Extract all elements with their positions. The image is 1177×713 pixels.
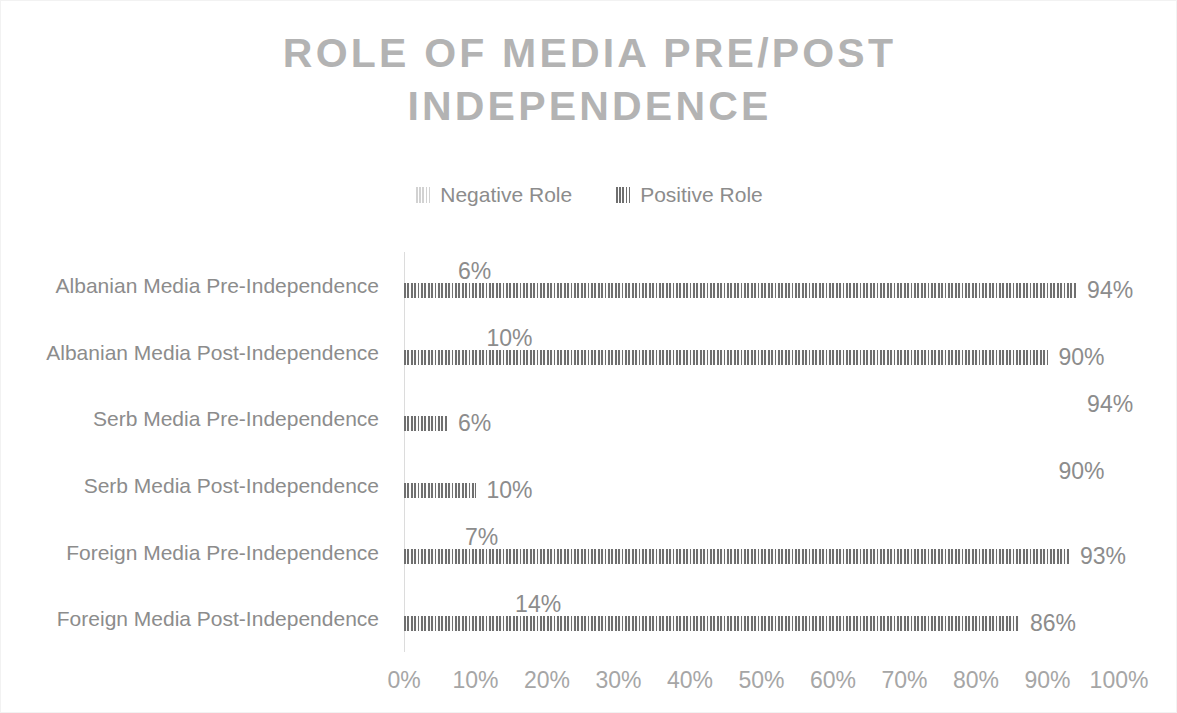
category-label: Serb Media Pre-Independence bbox=[1, 408, 379, 429]
chart-container: ROLE OF MEDIA PRE/POST INDEPENDENCE Nega… bbox=[0, 0, 1177, 713]
bar-value-positive: 90% bbox=[1059, 346, 1105, 369]
chart-legend: Negative Role Positive Role bbox=[1, 183, 1177, 207]
bar-row-group: 7% 93% bbox=[404, 518, 1119, 585]
x-axis-tick-labels: 0%10%20%30%40%50%60%70%80%90%100% bbox=[404, 669, 1119, 703]
category-label: Foreign Media Post-Independence bbox=[1, 608, 379, 629]
bar-fill-positive bbox=[404, 350, 1048, 365]
x-axis-tick: 40% bbox=[667, 669, 713, 692]
bar-negative[interactable]: 10% bbox=[404, 331, 533, 346]
category-label: Albanian Media Pre-Independence bbox=[1, 275, 379, 296]
x-axis-tick: 80% bbox=[953, 669, 999, 692]
bar-row-group: 94% 6% bbox=[404, 385, 1119, 452]
bar-fill-negative bbox=[404, 264, 447, 279]
legend-swatch-negative-icon bbox=[416, 187, 431, 203]
bar-fill-negative bbox=[404, 397, 1076, 412]
legend-item-negative-role[interactable]: Negative Role bbox=[416, 183, 572, 207]
x-axis-tick: 60% bbox=[810, 669, 856, 692]
category-label: Serb Media Post-Independence bbox=[1, 475, 379, 496]
bar-positive[interactable]: 86% bbox=[404, 616, 1076, 631]
legend-label-positive: Positive Role bbox=[640, 183, 763, 207]
bar-fill-negative bbox=[404, 331, 476, 346]
bar-positive[interactable]: 10% bbox=[404, 483, 533, 498]
bar-value-positive: 86% bbox=[1030, 612, 1076, 635]
bar-fill-negative bbox=[404, 597, 504, 612]
bar-row-group: 10% 90% bbox=[404, 319, 1119, 386]
plot-area: 6% 94% 10% 90% 94% 6% bbox=[404, 252, 1119, 652]
bar-negative[interactable]: 94% bbox=[404, 397, 1133, 412]
x-axis-tick: 100% bbox=[1090, 669, 1149, 692]
x-axis-tick: 50% bbox=[738, 669, 784, 692]
x-axis-tick: 90% bbox=[1024, 669, 1070, 692]
bar-value-negative: 94% bbox=[1087, 393, 1133, 416]
bar-value-negative: 6% bbox=[458, 260, 491, 283]
bar-value-negative: 14% bbox=[515, 593, 561, 616]
bar-row-group: 90% 10% bbox=[404, 452, 1119, 519]
chart-title: ROLE OF MEDIA PRE/POST INDEPENDENCE bbox=[1, 27, 1177, 133]
bar-fill-positive bbox=[404, 416, 447, 431]
bar-positive[interactable]: 90% bbox=[404, 350, 1105, 365]
bar-value-positive: 93% bbox=[1080, 545, 1126, 568]
x-axis-tick: 70% bbox=[881, 669, 927, 692]
x-axis-tick: 20% bbox=[524, 669, 570, 692]
x-axis-tick: 30% bbox=[595, 669, 641, 692]
bar-fill-positive bbox=[404, 283, 1076, 298]
bar-value-positive: 10% bbox=[487, 479, 533, 502]
legend-swatch-positive-icon bbox=[616, 187, 631, 203]
bar-fill-negative bbox=[404, 530, 454, 545]
bar-row-group: 6% 94% bbox=[404, 252, 1119, 319]
bar-value-positive: 6% bbox=[458, 412, 491, 435]
bar-value-negative: 7% bbox=[465, 526, 498, 549]
bar-negative[interactable]: 6% bbox=[404, 264, 491, 279]
bar-positive[interactable]: 6% bbox=[404, 416, 491, 431]
category-label: Foreign Media Pre-Independence bbox=[1, 542, 379, 563]
category-label: Albanian Media Post-Independence bbox=[1, 342, 379, 363]
x-axis-tick: 10% bbox=[452, 669, 498, 692]
bar-fill-positive bbox=[404, 483, 476, 498]
bar-negative[interactable]: 7% bbox=[404, 530, 498, 545]
bar-value-negative: 90% bbox=[1059, 460, 1105, 483]
bar-value-negative: 10% bbox=[487, 327, 533, 350]
bar-row-group: 14% 86% bbox=[404, 585, 1119, 652]
bar-fill-positive bbox=[404, 616, 1019, 631]
bar-positive[interactable]: 93% bbox=[404, 549, 1126, 564]
bar-fill-positive bbox=[404, 549, 1069, 564]
legend-label-negative: Negative Role bbox=[440, 183, 572, 207]
y-axis-category-labels: Albanian Media Pre-Independence Albanian… bbox=[1, 252, 391, 652]
legend-item-positive-role[interactable]: Positive Role bbox=[616, 183, 763, 207]
x-axis-tick: 0% bbox=[387, 669, 420, 692]
bar-negative[interactable]: 14% bbox=[404, 597, 561, 612]
bar-value-positive: 94% bbox=[1087, 279, 1133, 302]
bar-positive[interactable]: 94% bbox=[404, 283, 1133, 298]
